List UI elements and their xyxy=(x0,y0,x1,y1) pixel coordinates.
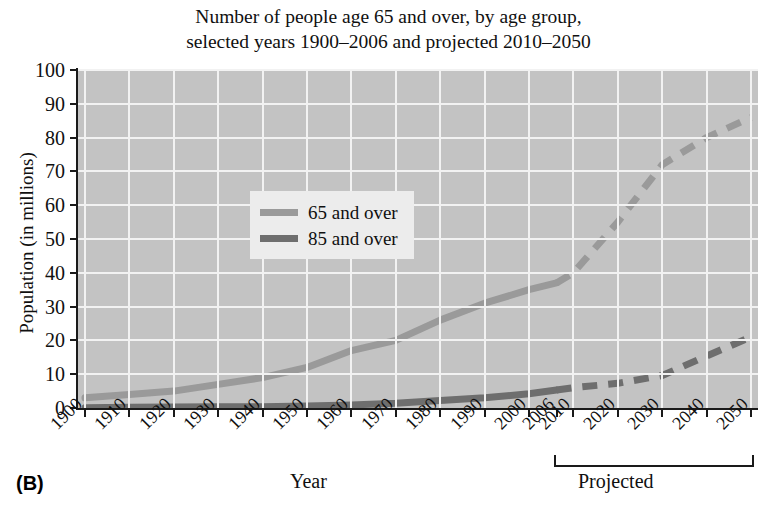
gridline-horizontal xyxy=(78,373,758,375)
legend-item-85-and-over: 85 and over xyxy=(260,225,398,251)
gridline-horizontal xyxy=(78,170,758,172)
x-axis-tick xyxy=(128,409,130,417)
y-axis-tick xyxy=(70,137,78,139)
gridline-vertical xyxy=(217,70,219,408)
series-65-and-over-projected xyxy=(557,117,751,283)
gridline-horizontal xyxy=(78,69,758,71)
plot-area: 65 and over 85 and over xyxy=(78,70,758,408)
legend-label-85-and-over: 85 and over xyxy=(308,229,398,248)
gridline-horizontal xyxy=(78,204,758,206)
projected-range-bracket xyxy=(554,455,754,467)
x-axis-tick xyxy=(484,409,486,417)
x-axis-title: Year xyxy=(290,470,327,493)
y-axis-tick xyxy=(70,170,78,172)
y-axis-tick-label: 100 xyxy=(5,60,65,80)
y-axis-title: Population (in millions) xyxy=(16,93,38,393)
gridline-vertical xyxy=(173,70,175,408)
y-axis-tick xyxy=(70,373,78,375)
gridline-horizontal xyxy=(78,103,758,105)
x-axis-tick xyxy=(706,409,708,417)
gridline-vertical xyxy=(750,70,752,408)
chart-title-line-2: selected years 1900–2006 and projected 2… xyxy=(0,29,777,54)
gridline-horizontal xyxy=(78,306,758,308)
legend-swatch-65-and-over xyxy=(260,209,298,216)
gridline-vertical xyxy=(528,70,530,408)
x-axis-tick xyxy=(750,409,752,417)
gridline-horizontal xyxy=(78,238,758,240)
legend-item-65-and-over: 65 and over xyxy=(260,199,398,225)
y-axis-tick xyxy=(70,238,78,240)
x-axis-tick xyxy=(439,409,441,417)
projected-label: Projected xyxy=(578,470,654,493)
x-axis-tick xyxy=(617,409,619,417)
y-axis-tick xyxy=(70,272,78,274)
gridline-horizontal xyxy=(78,339,758,341)
series-85-and-over-projected xyxy=(557,337,751,390)
x-axis-tick xyxy=(350,409,352,417)
gridline-vertical xyxy=(484,70,486,408)
x-axis-tick xyxy=(262,409,264,417)
chart-legend: 65 and over 85 and over xyxy=(250,191,414,259)
y-axis-tick xyxy=(70,69,78,71)
panel-label: (B) xyxy=(16,472,44,495)
x-axis-tick xyxy=(306,409,308,417)
chart-title: Number of people age 65 and over, by age… xyxy=(0,4,777,54)
y-axis-tick xyxy=(70,306,78,308)
x-axis-tick xyxy=(572,409,574,417)
gridline-horizontal xyxy=(78,137,758,139)
gridline-horizontal xyxy=(78,272,758,274)
x-axis-tick xyxy=(173,409,175,417)
x-axis-tick xyxy=(217,409,219,417)
y-axis-tick xyxy=(70,204,78,206)
x-axis-tick xyxy=(395,409,397,417)
x-axis-tick xyxy=(661,409,663,417)
gridline-vertical xyxy=(84,70,86,408)
legend-label-65-and-over: 65 and over xyxy=(308,203,398,222)
y-axis-tick xyxy=(70,339,78,341)
gridline-vertical xyxy=(661,70,663,408)
legend-swatch-85-and-over xyxy=(260,235,298,242)
gridline-vertical xyxy=(617,70,619,408)
y-axis-tick xyxy=(70,103,78,105)
x-axis-tick xyxy=(84,409,86,417)
gridline-vertical xyxy=(572,70,574,408)
gridline-vertical xyxy=(439,70,441,408)
chart-title-line-1: Number of people age 65 and over, by age… xyxy=(0,4,777,29)
gridline-vertical xyxy=(128,70,130,408)
gridline-vertical xyxy=(706,70,708,408)
